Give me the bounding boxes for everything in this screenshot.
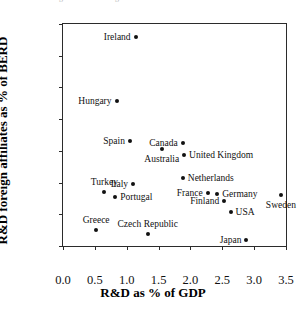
- data-point: [131, 182, 135, 186]
- x-tick-label: 1.0: [119, 274, 135, 287]
- x-tick-label: 2.0: [183, 274, 199, 287]
- clipped-caption-text: Figure: R&D foreign affiliates as % of B…: [52, 0, 298, 2]
- data-point-label: United Kingdom: [189, 150, 253, 160]
- x-tick-mark: [254, 246, 255, 250]
- y-tick-mark: [59, 214, 63, 215]
- data-point-label: Germany: [222, 189, 257, 199]
- y-tick-mark: [59, 119, 63, 120]
- x-tick-mark: [63, 246, 64, 250]
- data-point: [244, 238, 248, 242]
- data-point: [229, 210, 233, 214]
- data-point-label: Spain: [103, 136, 125, 146]
- data-point: [102, 190, 106, 194]
- x-tick-label: 2.5: [214, 274, 230, 287]
- x-tick-mark: [286, 246, 287, 250]
- data-point-label: Hungary: [78, 96, 111, 106]
- data-point: [182, 153, 186, 157]
- data-point-label: Netherlands: [188, 173, 234, 183]
- data-point-label: Australia: [144, 154, 179, 164]
- data-point: [181, 141, 185, 145]
- x-tick-label: 3.0: [246, 274, 262, 287]
- x-tick-mark: [127, 246, 128, 250]
- x-tick-mark: [95, 246, 96, 250]
- data-point-label: Turkey: [91, 177, 118, 187]
- data-point-label: USA: [236, 207, 255, 217]
- data-point: [181, 176, 185, 180]
- data-point: [113, 195, 117, 199]
- x-tick-label: 1.5: [151, 274, 167, 287]
- data-point: [128, 139, 132, 143]
- data-point: [146, 232, 150, 236]
- data-point-label: Japan: [220, 235, 242, 245]
- data-point-label: Portugal: [120, 192, 152, 202]
- data-point: [94, 228, 98, 232]
- x-tick-label: 3.5: [278, 274, 294, 287]
- clipped-caption: Figure: R&D foreign affiliates as % of B…: [0, 0, 306, 7]
- x-tick-label: 0.5: [87, 274, 103, 287]
- data-point: [134, 35, 138, 39]
- y-tick-mark: [59, 183, 63, 184]
- data-point-label: Finland: [190, 196, 219, 206]
- x-tick-label: 0.0: [55, 274, 71, 287]
- plot-frame: IrelandHungarySpainCanadaAustraliaUnited…: [62, 23, 287, 247]
- x-axis-title: R&D as % of GDP: [0, 285, 306, 301]
- plot-area: IrelandHungarySpainCanadaAustraliaUnited…: [63, 24, 286, 246]
- x-tick-mark: [159, 246, 160, 250]
- data-point: [160, 147, 164, 151]
- x-tick-mark: [190, 246, 191, 250]
- x-tick-mark: [222, 246, 223, 250]
- data-point: [222, 199, 226, 203]
- y-tick-mark: [59, 151, 63, 152]
- data-point: [206, 191, 210, 195]
- scatter-plot-figure: Figure: R&D foreign affiliates as % of B…: [0, 0, 306, 312]
- y-tick-mark: [59, 24, 63, 25]
- y-tick-mark: [59, 87, 63, 88]
- data-point-label: Greece: [83, 215, 110, 225]
- data-point: [115, 99, 119, 103]
- y-tick-mark: [59, 56, 63, 57]
- data-point-label: Czech Republic: [118, 219, 178, 229]
- data-point-label: Ireland: [104, 32, 131, 42]
- data-point: [279, 193, 283, 197]
- y-axis-title: R&D foreign affiliates as % of BERD: [0, 18, 11, 263]
- data-point-label: Sweden: [266, 200, 296, 210]
